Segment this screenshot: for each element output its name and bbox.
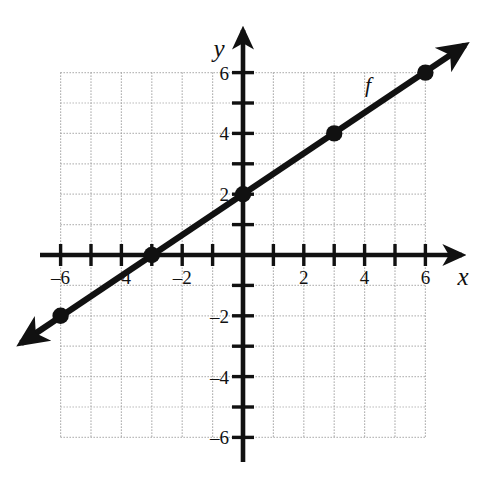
x-tick-label: –4 — [111, 267, 132, 288]
y-tick-label: 6 — [220, 63, 230, 84]
data-point — [144, 247, 160, 263]
graph-canvas: –6–4–2246 642–2–4–6 x y f — [0, 0, 499, 486]
y-tick-label: 2 — [220, 184, 230, 205]
data-point — [326, 125, 342, 141]
data-point — [417, 64, 433, 80]
y-tick-label: –4 — [209, 367, 230, 388]
y-tick-label: 4 — [220, 123, 230, 144]
x-tick-label: 6 — [421, 267, 431, 288]
x-tick-label: –6 — [50, 267, 70, 288]
y-axis-label: y — [210, 35, 225, 62]
x-tick-label: 4 — [360, 267, 370, 288]
data-point — [52, 308, 68, 324]
x-axis-label: x — [456, 263, 468, 290]
x-tick-label: 2 — [299, 267, 309, 288]
coordinate-plane-figure: –6–4–2246 642–2–4–6 x y f — [0, 0, 499, 486]
y-tick-label: –6 — [209, 427, 229, 448]
y-tick-label: –2 — [209, 306, 229, 327]
x-tick-label: –2 — [172, 267, 192, 288]
data-point — [235, 186, 251, 202]
